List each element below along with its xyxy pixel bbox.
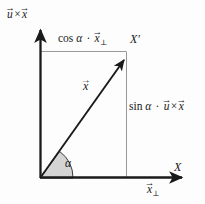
x-perp-label: x→⊥ (147, 184, 160, 197)
cos-projection-label: cos α · x→⊥ (58, 33, 107, 46)
angle-label: α (65, 158, 71, 170)
rotated-vector-label: x→ (83, 80, 88, 92)
horizontal-axis-label: X (174, 161, 181, 173)
rotated-vector-arrow (41, 60, 125, 178)
vector-diagram: u→×x→ cos α · x→⊥ X′ sin α · u→×x→ x→ α … (0, 0, 205, 204)
x-prime-label: X′ (130, 33, 140, 45)
vertical-axis-label: u→×x→ (7, 9, 27, 21)
sin-projection-label: sin α · u→×x→ (129, 101, 184, 113)
